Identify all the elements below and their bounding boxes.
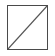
- no-color-swatch[interactable]: No color: [7, 5, 48, 50]
- no-color-icon: [8, 6, 47, 49]
- icon-canvas: No color: [0, 0, 55, 56]
